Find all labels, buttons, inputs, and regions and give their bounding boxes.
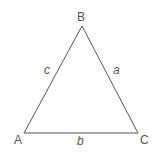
triangle-svg: A B C a b c <box>0 0 161 156</box>
side-label-b: b <box>77 134 84 148</box>
side-label-c: c <box>44 63 50 77</box>
side-label-a: a <box>113 63 120 77</box>
triangle-diagram: A B C a b c <box>0 0 161 156</box>
vertex-label-c: C <box>140 133 149 147</box>
vertex-label-b: B <box>77 10 85 24</box>
triangle-shape <box>24 26 138 133</box>
vertex-label-a: A <box>14 133 22 147</box>
